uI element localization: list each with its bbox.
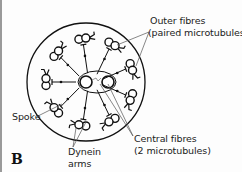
dynein-label: Dynein <box>68 146 101 157</box>
outer-doublet <box>75 32 95 74</box>
central-microtubule-right <box>102 76 114 88</box>
outer-doublet <box>69 91 90 130</box>
outer-doublet <box>103 85 136 110</box>
outer-doublet <box>41 70 76 90</box>
dynein-arms-label: arms <box>68 158 91 169</box>
central-fibres-note: (2 microtubules) <box>134 145 211 156</box>
outer-fibres-label: Outer fibres <box>150 15 205 26</box>
panel-label: B <box>11 151 23 167</box>
outer-doublet <box>97 90 119 131</box>
outer-doublet <box>103 60 140 80</box>
outer-doublet <box>44 88 79 117</box>
outer-doublet <box>50 41 79 76</box>
central-microtubule-left <box>80 76 92 88</box>
spoke-label: Spoke <box>12 111 40 122</box>
outer-fibres-note: (paired microtubules) <box>148 27 242 38</box>
figure-panel: Outer fibres (paired microtubules) Centr… <box>0 0 242 172</box>
central-fibres-label: Central fibres <box>134 133 197 144</box>
